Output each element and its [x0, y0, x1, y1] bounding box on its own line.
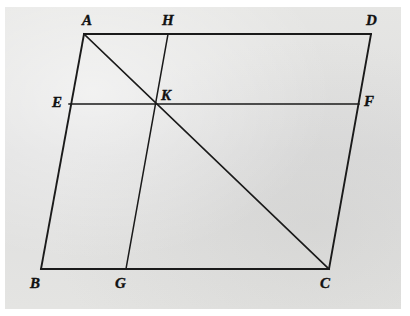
vertex-label-B: B [30, 276, 40, 291]
segment-DC [329, 34, 371, 269]
vertex-label-D: D [366, 13, 377, 28]
segment-AB [41, 34, 84, 269]
vertex-label-H: H [162, 13, 174, 28]
segment-HG [126, 34, 168, 269]
segment-layer [41, 34, 371, 269]
segment-AC [84, 34, 329, 269]
vertex-label-G: G [115, 276, 126, 291]
vertex-label-C: C [320, 276, 330, 291]
geometry-figure: AHDEKFBGC [0, 0, 410, 316]
vertex-label-F: F [364, 94, 374, 109]
vertex-label-K: K [161, 88, 171, 103]
vertex-label-A: A [82, 13, 92, 28]
diagram-canvas [0, 0, 410, 316]
vertex-label-E: E [52, 95, 62, 110]
